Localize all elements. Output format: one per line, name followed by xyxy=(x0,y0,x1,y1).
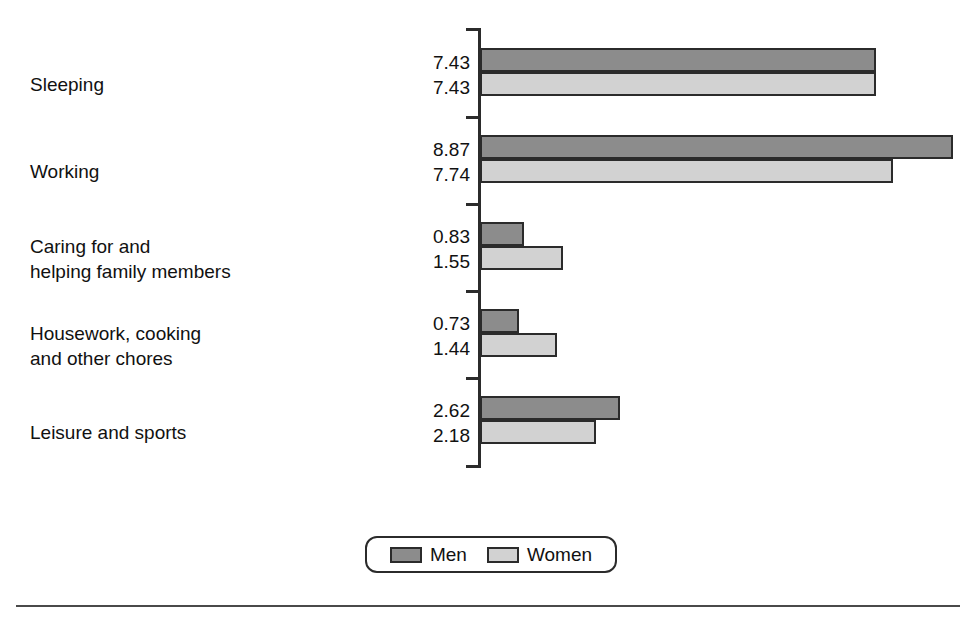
value-label-pair: 0.831.55 xyxy=(330,224,470,274)
horizontal-bar-chart: Sleeping7.437.43Working8.877.74Caring fo… xyxy=(0,0,976,620)
axis-tick xyxy=(466,28,479,31)
bar-men xyxy=(480,48,876,72)
value-label-women: 7.43 xyxy=(330,75,470,100)
chart-legend: Men Women xyxy=(365,536,617,573)
plot-area: Sleeping7.437.43Working8.877.74Caring fo… xyxy=(0,0,976,500)
legend-swatch-men-icon xyxy=(390,547,422,563)
axis-tick xyxy=(466,116,479,119)
bar-men xyxy=(480,222,524,246)
bar-women xyxy=(480,420,596,444)
value-label-men: 8.87 xyxy=(330,137,470,162)
axis-tick xyxy=(466,377,479,380)
bar-women xyxy=(480,72,876,96)
legend-swatch-women-icon xyxy=(487,547,519,563)
value-label-men: 2.62 xyxy=(330,398,470,423)
value-label-pair: 2.622.18 xyxy=(330,398,470,448)
axis-tick xyxy=(466,465,479,468)
legend-label-men: Men xyxy=(430,545,467,564)
bar-women xyxy=(480,159,893,183)
legend-item-women: Women xyxy=(487,545,592,564)
value-label-men: 0.83 xyxy=(330,224,470,249)
value-label-women: 1.55 xyxy=(330,249,470,274)
value-label-men: 7.43 xyxy=(330,50,470,75)
bar-men xyxy=(480,135,953,159)
value-label-men: 0.73 xyxy=(330,311,470,336)
value-label-women: 7.74 xyxy=(330,162,470,187)
axis-tick xyxy=(466,290,479,293)
bar-men xyxy=(480,309,519,333)
axis-tick xyxy=(466,203,479,206)
value-label-pair: 0.731.44 xyxy=(330,311,470,361)
value-label-pair: 7.437.43 xyxy=(330,50,470,100)
bar-women xyxy=(480,246,563,270)
legend-label-women: Women xyxy=(527,545,592,564)
legend-item-men: Men xyxy=(390,545,467,564)
footer-divider xyxy=(16,605,960,607)
value-label-women: 2.18 xyxy=(330,423,470,448)
value-label-pair: 8.877.74 xyxy=(330,137,470,187)
bar-women xyxy=(480,333,557,357)
value-label-women: 1.44 xyxy=(330,336,470,361)
bar-men xyxy=(480,396,620,420)
